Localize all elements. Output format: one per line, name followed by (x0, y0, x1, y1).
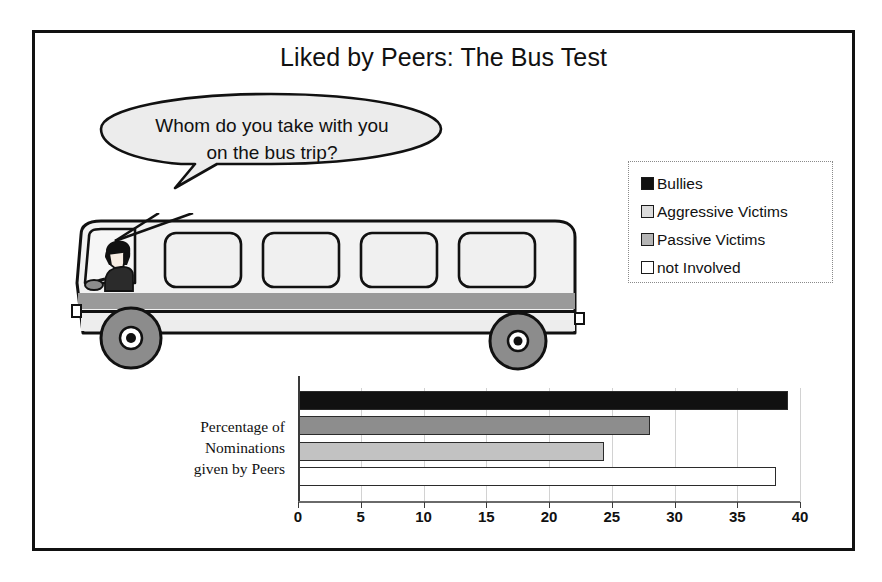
bus-wheel-rear (490, 313, 546, 369)
page-title: Liked by Peers: The Bus Test (35, 43, 852, 72)
speech-bubble-shape (97, 92, 445, 190)
bus-illustration (63, 213, 603, 383)
legend-label-passive-victims: Passive Victims (657, 231, 765, 249)
legend-label-aggressive-victims: Aggressive Victims (657, 203, 788, 221)
legend-swatch-not-involved (641, 261, 654, 274)
tick-label-40: 40 (792, 508, 809, 525)
y-axis-title-line-1: Percentage of (120, 416, 285, 437)
chart-legend: Bullies Aggressive Victims Passive Victi… (628, 161, 833, 283)
bus-rear-nub (575, 313, 584, 324)
plot-area: 0510152025303540 (298, 388, 800, 503)
bus-window-2 (263, 233, 339, 287)
bus-window-1 (165, 233, 241, 287)
bar-chart: Percentage of Nominations given by Peers… (120, 388, 840, 538)
legend-swatch-bullies (641, 177, 654, 190)
bus-front-mirror (72, 305, 81, 317)
slide-frame: Liked by Peers: The Bus Test Whom do you… (32, 30, 855, 551)
tick-label-25: 25 (603, 508, 620, 525)
y-axis-title-line-3: given by Peers (120, 458, 285, 479)
legend-swatch-passive-victims (641, 233, 654, 246)
bus-window-3 (361, 233, 437, 287)
tick-label-30: 30 (666, 508, 683, 525)
bar-bullies[interactable] (299, 391, 788, 410)
bus-side-stripe (78, 293, 575, 309)
steering-wheel-icon (85, 280, 103, 290)
bus-wheel-front (101, 308, 161, 368)
bus-drawing (63, 213, 603, 383)
legend-swatch-aggressive-victims (641, 205, 654, 218)
tick-label-0: 0 (294, 508, 302, 525)
bus-window-4 (459, 233, 535, 287)
gridline-40 (800, 388, 801, 503)
legend-item-passive-victims[interactable]: Passive Victims (641, 226, 832, 253)
y-axis-title: Percentage of Nominations given by Peers (120, 416, 285, 479)
bar-passive-victims[interactable] (299, 442, 604, 461)
tick-label-20: 20 (541, 508, 558, 525)
bar-not-involved[interactable] (299, 467, 776, 486)
bar-aggressive-victims[interactable] (299, 416, 650, 435)
legend-label-bullies: Bullies (657, 175, 703, 193)
legend-item-aggressive-victims[interactable]: Aggressive Victims (641, 198, 832, 225)
bus-stripe-edge (78, 310, 575, 313)
legend-label-not-involved: not Involved (657, 259, 741, 277)
legend-item-bullies[interactable]: Bullies (641, 170, 832, 197)
speech-bubble: Whom do you take with you on the bus tri… (97, 92, 445, 190)
y-axis-line (298, 376, 300, 503)
tick-label-5: 5 (357, 508, 365, 525)
tick-label-15: 15 (478, 508, 495, 525)
y-axis-title-line-2: Nominations (120, 437, 285, 458)
tick-label-10: 10 (415, 508, 432, 525)
tick-label-35: 35 (729, 508, 746, 525)
legend-item-not-involved[interactable]: not Involved (641, 254, 832, 281)
